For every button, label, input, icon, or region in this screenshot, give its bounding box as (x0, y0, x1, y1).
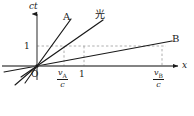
worldline-light (37, 20, 103, 66)
spacetime-diagram-figure: ct x A 光 B O 1 1 vA c vB c (0, 0, 194, 116)
tick-label-x-one: 1 (79, 70, 85, 79)
vb-numerator: vB (153, 69, 164, 79)
origin-point (35, 64, 38, 67)
worldline-label-b: B (172, 34, 179, 44)
vb-denominator: c (155, 81, 161, 89)
worldlines (37, 19, 172, 66)
va-subscript: A (63, 72, 67, 79)
tick-label-vb-over-c: vB c (153, 69, 164, 89)
worldline-A (37, 19, 71, 66)
va-numerator: vA (57, 69, 68, 79)
origin-label: O (31, 70, 38, 79)
axis-label-x: x (182, 61, 187, 70)
worldline-label-light: 光 (95, 10, 105, 20)
vb-subscript: B (159, 72, 163, 79)
tick-label-ct-one: 1 (24, 42, 30, 51)
worldline-B (37, 41, 172, 66)
va-denominator: c (59, 81, 65, 89)
worldline-label-a: A (63, 12, 70, 22)
axis-label-ct: ct (29, 2, 38, 11)
tick-label-va-over-c: vA c (57, 69, 68, 89)
